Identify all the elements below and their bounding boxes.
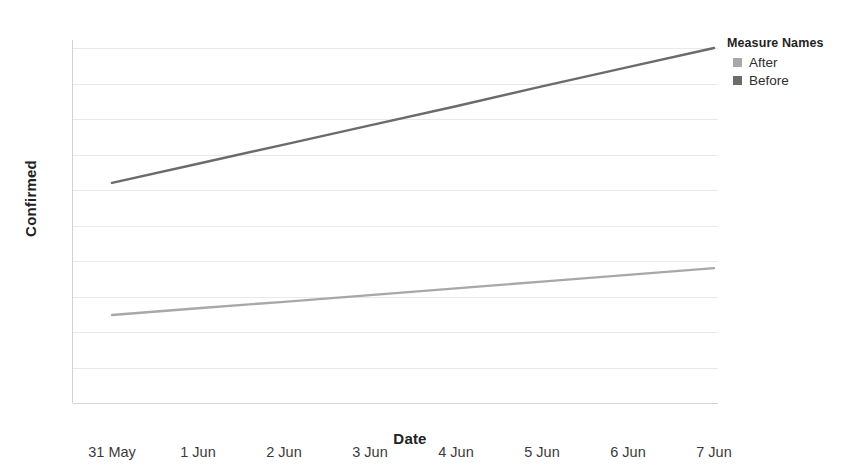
legend-item-label: Before (749, 73, 789, 88)
legend: Measure Names AfterBefore (727, 36, 847, 91)
x-axis-tick-label: 31 May (67, 444, 157, 460)
legend-swatch-icon (733, 58, 742, 67)
legend-item-before[interactable]: Before (733, 73, 847, 88)
x-axis-tick-label: 5 Jun (497, 444, 587, 460)
series-layer (72, 48, 718, 403)
legend-item-after[interactable]: After (733, 55, 847, 70)
legend-title: Measure Names (727, 36, 847, 50)
x-axis-tick-label: 1 Jun (153, 444, 243, 460)
series-lines (72, 48, 718, 403)
y-axis-title: Confirmed (22, 139, 39, 259)
legend-items: AfterBefore (727, 55, 847, 88)
x-axis-tick-label: 4 Jun (411, 444, 501, 460)
plot-area: 1.00.90.80.70.60.50.40.30.20.10.0 31 May… (72, 40, 718, 412)
x-axis-tick-label: 6 Jun (583, 444, 673, 460)
x-axis-tick-label: 7 Jun (669, 444, 759, 460)
legend-item-label: After (749, 55, 778, 70)
gridline (73, 403, 718, 404)
x-axis-tick-label: 3 Jun (325, 444, 415, 460)
chart-container: Confirmed Date 1.00.90.80.70.60.50.40.30… (0, 0, 852, 472)
series-line-before (112, 48, 714, 183)
x-axis-tick-label: 2 Jun (239, 444, 329, 460)
series-line-after (112, 268, 714, 315)
legend-swatch-icon (733, 76, 742, 85)
